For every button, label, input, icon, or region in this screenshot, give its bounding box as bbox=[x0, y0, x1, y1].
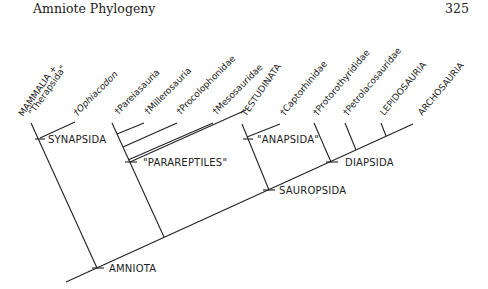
pareiasauria-branch bbox=[117, 123, 144, 134]
node-label-amniota: AMNIOTA bbox=[109, 263, 156, 274]
node-label-diapsida: DIAPSIDA bbox=[345, 157, 394, 168]
lepidosauria-branch bbox=[381, 123, 386, 136]
node-label-parareptiles: "PARAREPTILES" bbox=[143, 157, 227, 168]
node-label-sauropsida: SAUROPSIDA bbox=[279, 185, 346, 196]
cladogram: MAMMALIA + "Therapsida" †Ophiacodon †Par… bbox=[0, 0, 488, 289]
millerosauria-branch bbox=[123, 123, 177, 147]
taxon-label-procolophonidae: †Procolophonidae bbox=[174, 53, 237, 116]
taxon-label-protorothyrididae: †Protorothyrididae bbox=[311, 47, 372, 117]
node-label-synapsida: SYNAPSIDA bbox=[48, 134, 106, 145]
procolophonidae-branch bbox=[128, 123, 213, 160]
node-label-anapsida: "ANAPSIDA" bbox=[257, 134, 319, 145]
petrolacosauridae-branch bbox=[345, 123, 356, 150]
backbone-branch bbox=[66, 124, 413, 282]
